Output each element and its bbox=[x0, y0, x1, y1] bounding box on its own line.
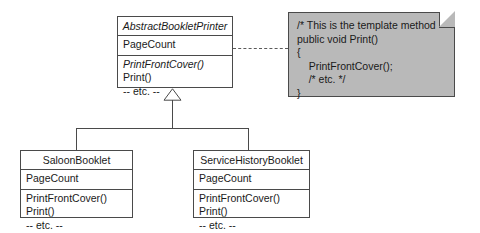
attribute-item: PageCount bbox=[26, 172, 127, 186]
class-attributes-servicehistorybooklet: PageCount bbox=[194, 170, 309, 190]
operation-item: PrintFrontCover() bbox=[123, 58, 227, 72]
generalization-branch-right bbox=[248, 128, 249, 151]
note-line: PrintFrontCover(); bbox=[297, 60, 446, 74]
note-anchor-dashed-line bbox=[233, 48, 288, 49]
uml-diagram-canvas: AbstractBookletPrinter PageCount PrintFr… bbox=[0, 0, 480, 232]
operation-item: Print() bbox=[26, 205, 127, 219]
operation-item: Print() bbox=[123, 71, 227, 85]
class-title-abstract-bookletprinter: AbstractBookletPrinter bbox=[118, 17, 232, 36]
attribute-item: PageCount bbox=[199, 172, 304, 186]
operation-item: PrintFrontCover() bbox=[199, 192, 304, 206]
operation-item: Print() bbox=[199, 205, 304, 219]
note-line: /* etc. */ bbox=[297, 73, 446, 87]
class-attributes-saloonbooklet: PageCount bbox=[21, 170, 132, 190]
note-body: /* This is the template method public vo… bbox=[289, 13, 454, 106]
note-line: { bbox=[297, 46, 446, 60]
operation-item: PrintFrontCover() bbox=[26, 192, 127, 206]
class-title-servicehistorybooklet: ServiceHistoryBooklet bbox=[194, 151, 309, 170]
operation-item: -- etc. -- bbox=[199, 219, 304, 233]
operation-item: -- etc. -- bbox=[26, 219, 127, 233]
class-attributes-abstract: PageCount bbox=[118, 36, 232, 56]
generalization-bus bbox=[76, 128, 249, 129]
class-box-abstract-bookletprinter[interactable]: AbstractBookletPrinter PageCount PrintFr… bbox=[117, 16, 233, 88]
note-line: /* This is the template method bbox=[297, 19, 446, 33]
attribute-item: PageCount bbox=[123, 38, 227, 52]
note-line: } bbox=[297, 87, 446, 101]
class-box-servicehistorybooklet[interactable]: ServiceHistoryBooklet PageCount PrintFro… bbox=[193, 150, 310, 218]
note-line: public void Print() bbox=[297, 33, 446, 47]
class-operations-saloonbooklet: PrintFrontCover() Print() -- etc. -- bbox=[21, 190, 132, 233]
generalization-stem bbox=[172, 100, 173, 129]
generalization-branch-left bbox=[76, 128, 77, 151]
class-box-saloonbooklet[interactable]: SaloonBooklet PageCount PrintFrontCover(… bbox=[20, 150, 133, 218]
note-template-method[interactable]: /* This is the template method public vo… bbox=[288, 12, 455, 97]
class-operations-servicehistorybooklet: PrintFrontCover() Print() -- etc. -- bbox=[194, 190, 309, 233]
class-title-saloonbooklet: SaloonBooklet bbox=[21, 151, 132, 170]
